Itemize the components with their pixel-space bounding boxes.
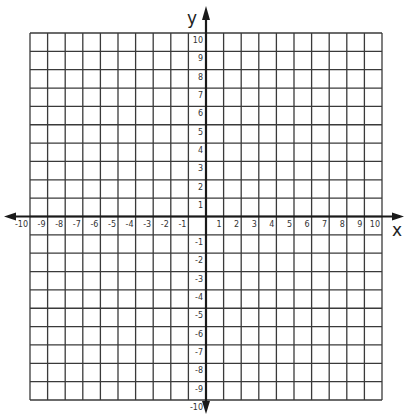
y-tick-label: 1 [198,201,203,210]
y-axis-down-arrow-icon [202,401,210,414]
y-axis-title: y [187,8,197,28]
x-tick-label: -10 [15,220,28,229]
y-tick-label: 3 [198,164,203,173]
x-tick-label: -7 [73,220,81,229]
y-tick-label: 7 [198,91,203,100]
y-tick-label: -10 [190,403,203,412]
y-tick-label: 10 [193,36,203,45]
axes [4,6,404,414]
y-tick-label: 9 [198,54,203,63]
x-axis-title: x [392,220,402,240]
x-tick-labels: -10-9-8-7-6-5-4-3-2-112345678910 [15,220,380,229]
y-axis-up-arrow-icon [202,6,210,20]
x-tick-label: 1 [217,220,222,229]
y-tick-label: -2 [195,256,203,265]
y-tick-label: -8 [195,366,203,375]
x-tick-label: -6 [90,220,98,229]
y-tick-label: 5 [198,128,203,137]
x-tick-label: 3 [252,220,257,229]
coordinate-grid: -10-9-8-7-6-5-4-3-2-112345678910 1098765… [0,0,418,418]
x-tick-label: -1 [178,220,186,229]
y-tick-label: -3 [195,275,203,284]
y-tick-label: -4 [195,293,203,302]
x-tick-label: -5 [108,220,116,229]
y-tick-label: -7 [195,348,203,357]
y-tick-label: -9 [195,385,203,394]
y-tick-label: 4 [198,146,203,155]
x-tick-label: 6 [305,220,310,229]
x-tick-label: 8 [340,220,345,229]
x-tick-label: -8 [55,220,63,229]
y-tick-label: -1 [195,238,203,247]
x-tick-label: -3 [143,220,151,229]
y-tick-label: 2 [198,183,203,192]
x-tick-label: 9 [357,220,362,229]
x-tick-label: 7 [322,220,327,229]
y-tick-label: 8 [198,73,203,82]
coordinate-plane: -10-9-8-7-6-5-4-3-2-112345678910 1098765… [0,0,418,418]
x-tick-label: 4 [269,220,274,229]
x-tick-label: 5 [287,220,292,229]
x-tick-label: -2 [161,220,169,229]
y-tick-label: -6 [195,330,203,339]
x-tick-label: 2 [234,220,239,229]
x-tick-label: -4 [126,220,134,229]
x-tick-label: 10 [370,220,380,229]
y-tick-labels: 10987654321-1-2-3-4-5-6-7-8-9-10 [190,36,203,412]
y-tick-label: -5 [195,311,203,320]
y-tick-label: 6 [198,109,203,118]
x-tick-label: -9 [38,220,46,229]
